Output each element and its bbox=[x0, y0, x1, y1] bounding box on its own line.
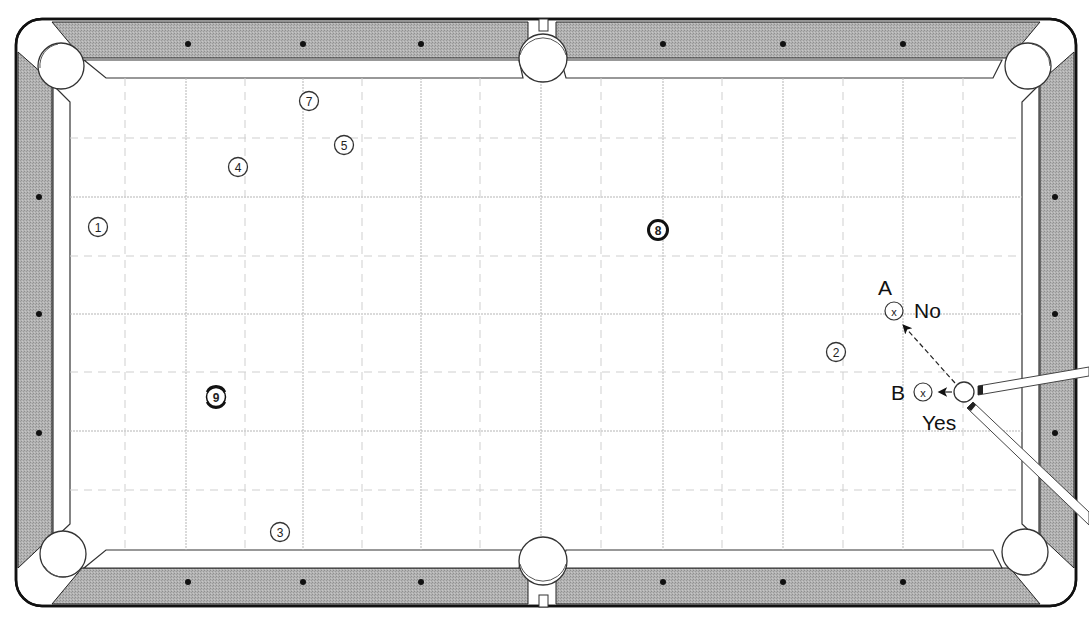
cushion-left bbox=[53, 85, 70, 540]
diamond-icon bbox=[418, 579, 424, 585]
ball-5: 5 bbox=[335, 136, 354, 155]
pocket-top-right bbox=[1005, 43, 1051, 89]
target-b-letter: B bbox=[891, 381, 905, 404]
svg-text:1: 1 bbox=[95, 221, 102, 235]
diamond-icon bbox=[1052, 311, 1058, 317]
diamond-icon bbox=[185, 41, 191, 47]
diamond-icon bbox=[300, 579, 306, 585]
target-a-verdict: No bbox=[914, 299, 941, 322]
cushion-top-right bbox=[561, 60, 1002, 78]
svg-text:3: 3 bbox=[277, 526, 284, 540]
diamond-icon bbox=[1052, 194, 1058, 200]
pocket-bottom-left bbox=[40, 531, 86, 577]
left-rail bbox=[18, 52, 52, 568]
cushion-bottom-right bbox=[561, 550, 1002, 568]
diamond-icon bbox=[780, 579, 786, 585]
target-b-verdict: Yes bbox=[922, 411, 956, 434]
svg-text:x: x bbox=[891, 306, 897, 318]
diamond-icon bbox=[900, 41, 906, 47]
diamond-icon bbox=[780, 41, 786, 47]
svg-text:x: x bbox=[920, 387, 926, 399]
target-a-letter: A bbox=[878, 276, 892, 299]
svg-text:2: 2 bbox=[833, 346, 840, 360]
cue-ball bbox=[954, 382, 974, 402]
diamond-icon bbox=[900, 579, 906, 585]
ball-7: 7 bbox=[300, 92, 319, 111]
ball-2: 2 bbox=[827, 343, 846, 362]
diamond-icon bbox=[36, 194, 42, 200]
ball-3: 3 bbox=[271, 523, 290, 542]
svg-text:5: 5 bbox=[341, 139, 348, 153]
diamond-icon bbox=[36, 430, 42, 436]
diamond-icon bbox=[300, 41, 306, 47]
pocket-top-left bbox=[38, 43, 84, 89]
svg-text:7: 7 bbox=[306, 95, 313, 109]
diamond-icon bbox=[36, 311, 42, 317]
diamond-icon bbox=[660, 579, 666, 585]
ball-8: 8 bbox=[649, 221, 668, 240]
cushion-bottom-left bbox=[84, 550, 523, 568]
ball-9: 9 bbox=[207, 386, 226, 407]
svg-text:4: 4 bbox=[235, 161, 242, 175]
diamond-icon bbox=[660, 41, 666, 47]
diamond-icon bbox=[185, 579, 191, 585]
cushion-top-left bbox=[84, 60, 523, 78]
pool-table-diagram: 1 2 3 4 5 7 8 9 bbox=[0, 0, 1089, 618]
ball-1: 1 bbox=[89, 218, 108, 237]
top-rail-right bbox=[556, 22, 1040, 58]
diamond-icon bbox=[1052, 430, 1058, 436]
ball-4: 4 bbox=[229, 158, 248, 177]
bottom-rail-left bbox=[52, 568, 528, 604]
diamond-icon bbox=[418, 41, 424, 47]
bottom-rail-right bbox=[556, 568, 1040, 604]
svg-text:8: 8 bbox=[655, 224, 662, 238]
pocket-bottom-right bbox=[1002, 529, 1048, 575]
top-rail-left bbox=[52, 22, 528, 58]
svg-text:9: 9 bbox=[213, 391, 220, 405]
